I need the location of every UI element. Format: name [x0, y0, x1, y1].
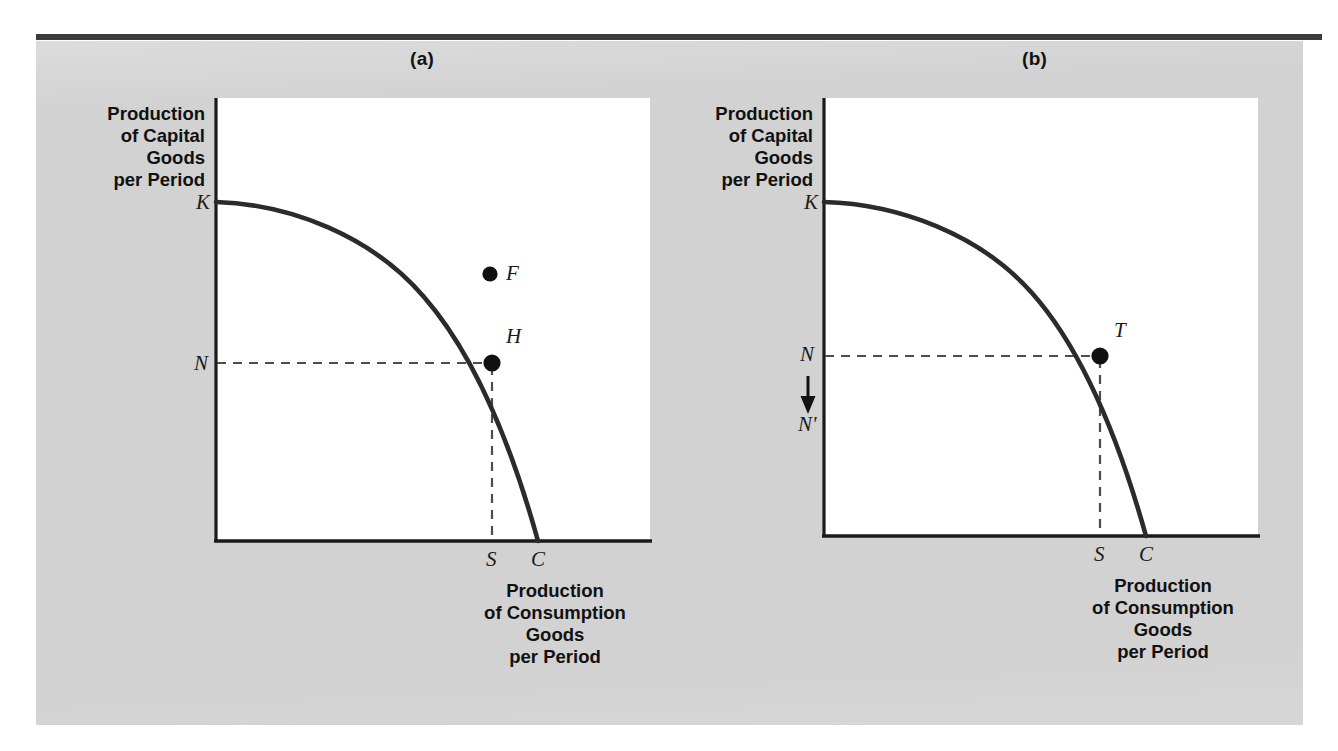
- panel-b-caption: (b): [1022, 48, 1047, 70]
- panel-a-axis-label-n: N: [194, 353, 208, 374]
- page-margin-top: [0, 0, 1338, 34]
- top-divider-rule: [36, 34, 1322, 40]
- panel-a-caption: (a): [410, 48, 434, 70]
- panel-a-x-axis-title: Production of Consumption Goods per Peri…: [440, 580, 670, 668]
- panel-a-axis-label-s: S: [486, 549, 497, 570]
- panel-b-x-axis-title: Production of Consumption Goods per Peri…: [1048, 575, 1278, 663]
- panel-b-axis-label-n: N: [800, 344, 814, 365]
- page-margin-right: [1303, 41, 1338, 751]
- panel-a-axis-label-c: C: [531, 549, 545, 570]
- panel-b-y-axis-title: Production of Capital Goods per Period: [628, 103, 813, 191]
- figure-root: (a) Production of Capital Goods per Peri…: [0, 0, 1338, 751]
- panel-b-plot-area: [823, 98, 1258, 537]
- panel-a-point-label-f: F: [506, 263, 519, 284]
- panel-a-point-label-h: H: [506, 326, 521, 347]
- panel-a-axis-label-k: K: [196, 192, 210, 213]
- panel-b-axis-label-k: K: [804, 192, 818, 213]
- page-margin-bottom: [0, 725, 1338, 751]
- panel-b-axis-label-n-prime: N': [798, 414, 817, 435]
- panel-b-axis-label-s: S: [1094, 544, 1105, 565]
- panel-b-point-label-t: T: [1114, 320, 1126, 341]
- panel-b-axis-label-c: C: [1139, 544, 1153, 565]
- panel-a-plot-area: [215, 98, 650, 542]
- panel-a-y-axis-title: Production of Capital Goods per Period: [20, 103, 205, 191]
